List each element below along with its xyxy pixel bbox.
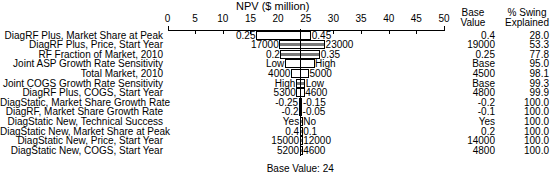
- cell-swing-explained: 100.0: [499, 146, 549, 156]
- tornado-bar-shade: [280, 43, 324, 46]
- tornado-bar: [279, 40, 325, 49]
- bar-low-value: 5200: [277, 146, 299, 156]
- base-value-note: Base Value: 24: [200, 163, 400, 174]
- bar-high-value: 4600: [303, 146, 325, 156]
- tornado-rows: DiagRF Plus, Market Share at Peak0.250.4…: [0, 0, 560, 175]
- cell-base-value: 4800: [451, 146, 495, 156]
- table-row: DiagStatic New, COGS, Start Year52004600…: [0, 146, 560, 156]
- row-label: DiagStatic New, COGS, Start Year: [0, 146, 163, 156]
- tornado-diagram: NPV ($ million) 05101520253035404550 Bas…: [0, 0, 560, 175]
- base-value-line: [300, 29, 301, 157]
